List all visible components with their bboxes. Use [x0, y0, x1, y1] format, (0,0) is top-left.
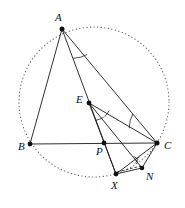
segment-AC	[62, 29, 157, 143]
segment-AB	[30, 29, 62, 144]
vertex-dot-A	[60, 27, 65, 32]
vertex-label-C: C	[164, 140, 171, 151]
segment-BC	[30, 143, 157, 144]
geometry-figure: A B C E P X N	[0, 0, 185, 208]
vertex-label-E: E	[76, 94, 83, 105]
vertex-dot-B	[28, 142, 33, 147]
vertex-label-A: A	[55, 12, 62, 23]
vertex-label-P: P	[96, 146, 103, 157]
segment-EC	[89, 103, 157, 143]
angle-arc-at-E-2	[105, 110, 110, 116]
vertex-dot-C	[155, 141, 160, 146]
vertex-dot-X	[114, 172, 119, 177]
vertex-dot-N	[140, 166, 145, 171]
vertex-label-X: X	[111, 180, 118, 191]
segment-EN	[89, 103, 142, 168]
vertex-label-N: N	[146, 171, 153, 182]
vertex-dot-E	[87, 101, 92, 106]
angle-arc-at-C	[129, 114, 133, 128]
segment-CN	[142, 143, 157, 168]
segment-EX	[89, 103, 116, 174]
geometry-canvas	[0, 0, 185, 208]
vertex-label-B: B	[18, 141, 25, 152]
